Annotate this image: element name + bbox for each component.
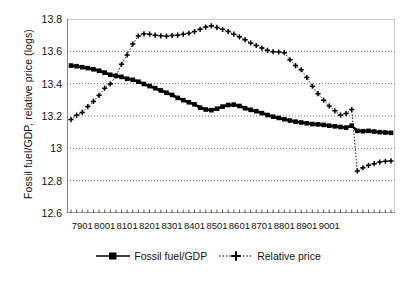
- legend-item-fossil-fuel-gdp[interactable]: Fossil fuel/GDP: [96, 250, 207, 262]
- x-axis-tick-label: 8501: [206, 220, 227, 231]
- x-axis-tick-label: 8101: [117, 220, 138, 231]
- x-axis-tick-label: 7901: [72, 220, 93, 231]
- y-axis-tick-label: 12.6: [42, 207, 62, 219]
- x-axis-tick-label: 8401: [184, 220, 205, 231]
- x-axis-tick-label: 8301: [161, 220, 182, 231]
- y-axis-tick-label: 12.8: [42, 175, 62, 187]
- x-axis-tick-label: 8801: [274, 220, 295, 231]
- y-axis-tick-label: 13.6: [42, 45, 62, 57]
- square-marker-icon: [96, 250, 130, 262]
- chart-figure: Fossil fuel/GDP, relative price (logs) 1…: [0, 0, 417, 281]
- x-axis-tick-label: 8001: [94, 220, 115, 231]
- x-axis-tick-label: 8201: [139, 220, 160, 231]
- plus-marker-icon: [219, 250, 253, 262]
- legend-label-fossil-fuel-gdp: Fossil fuel/GDP: [134, 250, 207, 262]
- y-axis-tick-label: 13.4: [42, 78, 62, 90]
- y-axis-title: Fossil fuel/GDP, relative price (logs): [22, 14, 34, 214]
- legend-label-relative-price: Relative price: [257, 250, 321, 262]
- y-axis-tick-label: 13: [50, 142, 62, 154]
- x-axis-tick-label: 8901: [296, 220, 317, 231]
- x-axis-tick-label: 8701: [251, 220, 272, 231]
- y-axis-tick-label: 13.2: [42, 110, 62, 122]
- plot-svg: [67, 19, 395, 213]
- chart-legend: Fossil fuel/GDP Relative price: [0, 250, 417, 262]
- x-axis-tick-label: 9001: [319, 220, 340, 231]
- y-axis-tick-label: 13.8: [42, 13, 62, 25]
- legend-item-relative-price[interactable]: Relative price: [219, 250, 321, 262]
- plot-area: 12.612.81313.213.413.613.879018001810182…: [67, 19, 395, 213]
- x-axis-tick-label: 8601: [229, 220, 250, 231]
